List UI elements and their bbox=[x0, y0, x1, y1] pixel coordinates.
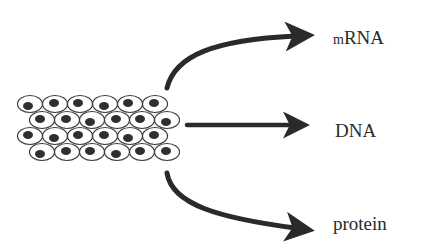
cell-nucleus bbox=[99, 102, 109, 110]
label-dna: DNA bbox=[335, 121, 376, 140]
cell-nucleus bbox=[73, 131, 83, 139]
cell-nucleus bbox=[123, 134, 133, 142]
cell-nucleus bbox=[161, 118, 171, 126]
cell-nucleus bbox=[49, 134, 59, 142]
label-protein: protein bbox=[333, 214, 387, 233]
cell-nucleus bbox=[99, 131, 109, 139]
label-mrna-prefix: m bbox=[333, 32, 344, 47]
cell-nucleus bbox=[135, 147, 145, 155]
label-mrna-main: RNA bbox=[344, 27, 384, 48]
cell-nucleus bbox=[161, 147, 171, 155]
arrow-to-protein bbox=[167, 173, 295, 228]
cell-nucleus bbox=[73, 99, 83, 107]
cell-nucleus bbox=[123, 99, 133, 107]
cell-nucleus bbox=[149, 131, 159, 139]
cell-nucleus bbox=[23, 102, 33, 110]
cell-nucleus bbox=[23, 131, 33, 139]
cell-nucleus bbox=[35, 115, 45, 123]
cell-nucleus bbox=[49, 99, 59, 107]
cell-nucleus bbox=[85, 118, 95, 126]
cell-nucleus bbox=[149, 99, 159, 107]
cell-nucleus bbox=[35, 150, 45, 158]
label-mrna: mRNA bbox=[333, 28, 384, 47]
cell-nucleus bbox=[85, 147, 95, 155]
cell-nucleus bbox=[61, 147, 71, 155]
cell-nucleus bbox=[111, 115, 121, 123]
cell-nucleus bbox=[111, 150, 121, 158]
arrow-to-mrna bbox=[167, 36, 295, 88]
cell-tissue bbox=[18, 96, 180, 161]
cell-nucleus bbox=[135, 115, 145, 123]
cell-nucleus bbox=[61, 115, 71, 123]
